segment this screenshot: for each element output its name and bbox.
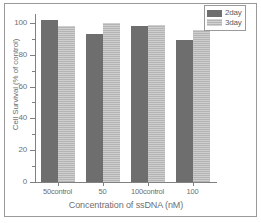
x-tick-mark xyxy=(148,182,149,186)
y-tick-mark xyxy=(30,182,35,183)
bar-3day-100 xyxy=(193,30,210,182)
legend-item-3day: 3day xyxy=(207,18,242,27)
bar-2day-100control xyxy=(131,26,148,182)
bar-3day-50control xyxy=(58,26,75,182)
bar-2day-50 xyxy=(86,34,103,182)
y-axis-title: Cell Survival (% of control) xyxy=(11,5,20,165)
bar-3day-100control xyxy=(148,25,165,182)
legend: 2day 3day xyxy=(204,5,246,31)
legend-item-2day: 2day xyxy=(207,9,242,18)
y-tick-label: 0 xyxy=(3,178,27,186)
figure-container: 020406080100 Cell Survival (% of control… xyxy=(0,0,261,223)
x-tick-mark xyxy=(103,182,104,186)
legend-label: 3day xyxy=(225,19,242,27)
bar-2day-50control xyxy=(41,20,58,182)
x-axis-title: Concentration of ssDNA (nM) xyxy=(35,200,217,210)
x-axis-line xyxy=(35,182,217,183)
legend-label: 2day xyxy=(225,9,242,17)
x-tick-label: 100 xyxy=(163,187,223,196)
bar-3day-50 xyxy=(103,23,120,182)
legend-swatch-icon xyxy=(207,10,222,17)
bar-2day-100 xyxy=(176,40,193,182)
x-tick-mark xyxy=(193,182,194,186)
x-tick-mark xyxy=(58,182,59,186)
legend-swatch-icon xyxy=(207,19,222,26)
plot-area xyxy=(35,15,215,182)
